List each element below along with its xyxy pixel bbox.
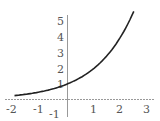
y-neg-tick-label: -1 [49, 108, 60, 121]
x-tick-label: -2 [6, 103, 17, 116]
exponential-chart: -2 -1 1 2 3 -1 1 2 3 4 5 [0, 0, 160, 121]
x-tick-label: 1 [90, 103, 97, 116]
y-tick-label: 1 [57, 78, 64, 91]
data-curve [15, 11, 134, 95]
x-tick-label: 3 [143, 103, 150, 116]
y-tick-label: 2 [57, 63, 64, 76]
y-tick-label: 3 [57, 47, 64, 60]
x-tick-label: -1 [33, 103, 44, 116]
x-tick-label: 2 [116, 103, 123, 116]
y-tick-label: 5 [57, 15, 64, 28]
y-tick-label: 4 [57, 31, 64, 44]
